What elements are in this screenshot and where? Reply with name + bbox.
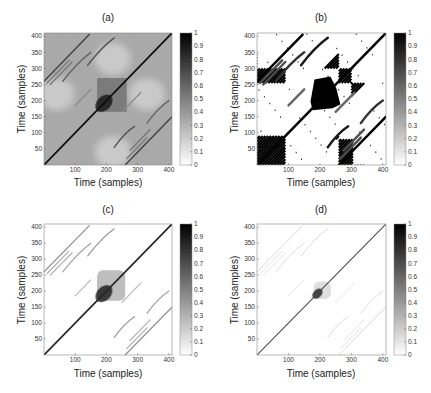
y-tick-label: 150 xyxy=(31,303,42,310)
colorbar-tick-label: 1 xyxy=(194,29,198,36)
colorbar-tick-label: 0.8 xyxy=(194,56,203,63)
colorbar-tick-label: 0.8 xyxy=(194,246,203,253)
y-tick-label: 100 xyxy=(31,129,42,136)
y-tick-label: 250 xyxy=(31,271,42,278)
x-tick-label: 300 xyxy=(132,356,143,363)
panel-d-plot-area: 10020030040050100150200250300350400 xyxy=(244,223,389,363)
y-tick-label: 150 xyxy=(31,113,42,120)
panel-c: (c) 10020030040050100150200250300350400 … xyxy=(16,204,203,379)
panel-b-colorbar: 00.10.20.30.40.50.60.70.80.91 xyxy=(394,29,417,168)
colorbar-tick-label: 0.2 xyxy=(194,325,203,332)
y-tick-label: 400 xyxy=(31,223,42,230)
x-tick-label: 400 xyxy=(377,166,388,173)
colorbar-tick-label: 0.9 xyxy=(408,42,417,49)
x-tick-label: 200 xyxy=(314,356,325,363)
colorbar-tick-label: 0.4 xyxy=(408,108,417,115)
y-tick-label: 150 xyxy=(244,303,255,310)
x-tick-label: 200 xyxy=(101,356,112,363)
panel-a-colorbar: 00.10.20.30.40.50.60.70.80.91 xyxy=(180,29,203,168)
x-tick-label: 400 xyxy=(377,356,388,363)
x-tick-label: 100 xyxy=(283,166,294,173)
colorbar-tick-label: 0.5 xyxy=(194,95,203,102)
colorbar-tick-label: 0.7 xyxy=(194,260,203,267)
colorbar-tick-label: 0.2 xyxy=(194,135,203,142)
y-tick-label: 250 xyxy=(244,271,255,278)
y-tick-label: 400 xyxy=(244,32,255,39)
x-tick-label: 300 xyxy=(346,166,357,173)
colorbar-tick-label: 0.1 xyxy=(194,148,203,155)
y-tick-label: 300 xyxy=(31,255,42,262)
x-tick-label: 200 xyxy=(101,166,112,173)
y-tick-label: 200 xyxy=(31,97,42,104)
y-tick-label: 350 xyxy=(244,239,255,246)
colorbar-tick-label: 0.3 xyxy=(408,312,417,319)
x-tick-label: 100 xyxy=(70,166,81,173)
y-tick-label: 50 xyxy=(35,145,43,152)
x-tick-label: 300 xyxy=(346,356,357,363)
x-tick-label: 400 xyxy=(163,166,174,173)
panel-c-ylabel: Time (samples) xyxy=(16,256,27,325)
y-tick-label: 300 xyxy=(31,65,42,72)
panel-b-plot-area: 10020030040050100150200250300350400 xyxy=(243,32,389,176)
panel-a-title: (a) xyxy=(102,12,114,23)
y-tick-label: 300 xyxy=(244,65,255,72)
y-tick-label: 50 xyxy=(248,145,256,152)
colorbar-tick-label: 0.9 xyxy=(194,42,203,49)
x-tick-label: 100 xyxy=(70,356,81,363)
y-tick-label: 400 xyxy=(244,223,255,230)
colorbar-tick-label: 0.7 xyxy=(408,260,417,267)
panel-b-ylabel: Time (samples) xyxy=(229,65,240,134)
colorbar-tick-label: 0.3 xyxy=(194,312,203,319)
panel-b-xlabel: Time (samples) xyxy=(287,177,356,188)
x-tick-label: 300 xyxy=(132,166,143,173)
colorbar-tick-label: 0.1 xyxy=(408,148,417,155)
y-tick-label: 400 xyxy=(31,32,42,39)
colorbar-tick-label: 0.6 xyxy=(194,273,203,280)
colorbar-tick-label: 0.4 xyxy=(194,299,203,306)
colorbar-tick-label: 0.4 xyxy=(194,108,203,115)
y-tick-label: 200 xyxy=(244,287,255,294)
colorbar-tick-label: 0.5 xyxy=(194,286,203,293)
colorbar-tick-label: 0.2 xyxy=(408,325,417,332)
colorbar-tick-label: 0.6 xyxy=(408,82,417,89)
colorbar-tick-label: 0.9 xyxy=(194,233,203,240)
x-tick-label: 100 xyxy=(283,356,294,363)
colorbar-tick-label: 0.7 xyxy=(408,69,417,76)
panel-b: (b) 10020030040050100150200250300350400 … xyxy=(229,12,417,188)
y-tick-label: 250 xyxy=(31,81,42,88)
panel-a-ylabel: Time (samples) xyxy=(16,65,27,134)
panel-a-xlabel: Time (samples) xyxy=(74,177,143,188)
panel-d-ylabel: Time (samples) xyxy=(229,256,240,325)
y-tick-label: 100 xyxy=(31,319,42,326)
y-tick-label: 350 xyxy=(31,239,42,246)
colorbar-tick-label: 0.3 xyxy=(194,122,203,129)
y-tick-label: 350 xyxy=(31,49,42,56)
panel-b-title: (b) xyxy=(315,12,327,23)
colorbar-tick-label: 0 xyxy=(408,351,412,358)
colorbar-tick-label: 1 xyxy=(408,220,412,227)
panel-d: (d) 10020030040050100150200250300350400 … xyxy=(229,204,417,379)
x-tick-label: 400 xyxy=(163,356,174,363)
panel-d-colorbar: 00.10.20.30.40.50.60.70.80.91 xyxy=(394,220,417,358)
y-tick-label: 200 xyxy=(244,97,255,104)
colorbar-tick-label: 0 xyxy=(194,161,198,168)
panel-c-xlabel: Time (samples) xyxy=(74,368,143,379)
panel-d-xlabel: Time (samples) xyxy=(287,368,356,379)
y-tick-label: 50 xyxy=(248,335,256,342)
colorbar-tick-label: 0.7 xyxy=(194,69,203,76)
panel-c-title: (c) xyxy=(102,204,114,215)
colorbar-tick-label: 0.8 xyxy=(408,56,417,63)
colorbar-tick-label: 0.5 xyxy=(408,286,417,293)
panel-c-colorbar: 00.10.20.30.40.50.60.70.80.91 xyxy=(180,220,203,358)
colorbar-tick-label: 0 xyxy=(194,351,198,358)
figure: (a) 10020030040050100150200250300350400 … xyxy=(0,0,431,393)
y-tick-label: 100 xyxy=(244,129,255,136)
colorbar-tick-label: 0 xyxy=(408,161,412,168)
colorbar-tick-label: 0.6 xyxy=(194,82,203,89)
colorbar-tick-label: 1 xyxy=(408,29,412,36)
y-tick-label: 300 xyxy=(244,255,255,262)
y-tick-label: 150 xyxy=(244,113,255,120)
colorbar-tick-label: 0.4 xyxy=(408,299,417,306)
colorbar-tick-label: 0.1 xyxy=(408,338,417,345)
colorbar-tick-label: 0.5 xyxy=(408,95,417,102)
